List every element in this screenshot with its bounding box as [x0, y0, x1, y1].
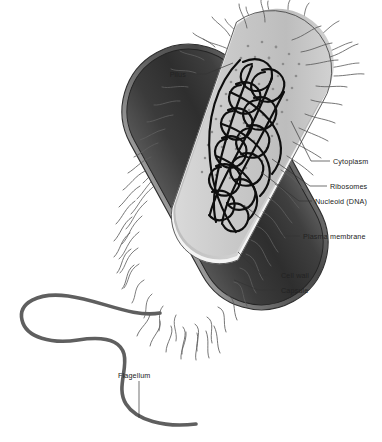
label-pilus: Pilus: [170, 70, 187, 79]
label-nucleoid: Nucleoid (DNA): [315, 197, 367, 206]
bacterial-cell-diagram: Pilus Cytoplasm Ribosomes Nucleoid (DNA)…: [0, 0, 382, 442]
label-ribosomes: Ribosomes: [330, 182, 368, 191]
label-plasma-membrane: Plasma membrane: [303, 232, 366, 241]
label-cytoplasm: Cytoplasm: [333, 157, 368, 166]
label-capsule: Capsule: [281, 286, 308, 295]
cell-body: [98, 9, 352, 334]
diagram-canvas: Pilus Cytoplasm Ribosomes Nucleoid (DNA)…: [0, 0, 382, 442]
flagellum: [21, 295, 196, 425]
label-cell-wall: Cell wall: [281, 271, 309, 280]
label-flagellum: Flagellum: [118, 371, 151, 380]
